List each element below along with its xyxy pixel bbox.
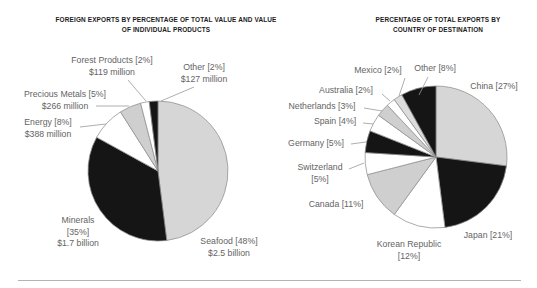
leader-line [363, 123, 373, 124]
wedge-china [436, 86, 507, 166]
leader-line [161, 87, 194, 101]
label-korean-republic-name: Korean Republic [377, 239, 442, 251]
label-forest-products-name: Forest Products [2%] [71, 55, 153, 67]
label-forest-products-value: $119 million [71, 67, 153, 79]
label-precious-metals-name: Precious Metals [5%] [24, 89, 106, 101]
label-minerals: Minerals [35%] $1.7 billion [56, 215, 99, 250]
label-seafood-name: Seafood [48%] [200, 236, 257, 248]
leader-line [382, 94, 390, 101]
label-other-countries: Other [8%] [413, 63, 456, 75]
label-canada-text: Canada [11%] [309, 199, 364, 211]
label-minerals-pct: [35%] [57, 227, 99, 239]
label-korean-republic: Korean Republic [12%] [376, 239, 443, 262]
label-minerals-name: Minerals [57, 215, 99, 227]
label-australia-text: Australia [2%] [319, 85, 373, 97]
label-mexico: Mexico [2%] [353, 65, 402, 77]
label-canada: Canada [11%] [308, 199, 364, 211]
label-japan-text: Japan [21%] [464, 230, 513, 242]
label-germany-text: Germany [5%] [288, 138, 344, 150]
wedge-japan [436, 157, 506, 227]
label-forest-products: Forest Products [2%] $119 million [70, 55, 154, 78]
leader-line [128, 80, 146, 101]
leader-line [80, 124, 106, 127]
label-other-products-value: $127 million [181, 74, 228, 86]
label-germany: Germany [5%] [287, 138, 345, 150]
label-spain-text: Spain [4%] [314, 116, 356, 128]
label-switzerland-name: Switzerland [297, 162, 342, 174]
label-energy-name: Energy [8%] [24, 117, 72, 129]
left-chart-title-line1: FOREIGN EXPORTS BY PERCENTAGE OF TOTAL V… [56, 15, 277, 25]
left-chart-title: FOREIGN EXPORTS BY PERCENTAGE OF TOTAL V… [38, 15, 295, 34]
label-australia: Australia [2%] [318, 85, 374, 97]
label-seafood: Seafood [48%] $2.5 billion [199, 236, 258, 259]
label-mexico-text: Mexico [2%] [354, 65, 402, 77]
label-other-products: Other [2%] $127 million [180, 62, 228, 85]
leader-line [364, 108, 382, 111]
label-switzerland: Switzerland [5%] [297, 162, 344, 185]
label-energy-value: $388 million [24, 129, 72, 141]
label-japan: Japan [21%] [463, 230, 513, 242]
right-chart-title: PERCENTAGE OF TOTAL EXPORTS BY COUNTRY O… [365, 15, 510, 34]
label-china-text: China [27%] [470, 81, 518, 93]
label-energy: Energy [8%] $388 million [23, 117, 72, 140]
label-precious-metals: Precious Metals [5%] $266 million [23, 89, 108, 112]
label-korean-republic-pct: [12%] [377, 251, 442, 263]
label-china: China [27%] [469, 81, 518, 93]
label-precious-metals-value: $266 million [24, 101, 106, 113]
chart-canvas: FOREIGN EXPORTS BY PERCENTAGE OF TOTAL V… [0, 0, 537, 288]
leader-line [349, 163, 364, 169]
label-minerals-value: $1.7 billion [57, 238, 99, 250]
right-chart-title-line1: PERCENTAGE OF TOTAL EXPORTS BY [376, 15, 501, 25]
wedge-seafood [158, 101, 228, 240]
label-spain: Spain [4%] [313, 116, 357, 128]
label-other-countries-text: Other [8%] [414, 63, 456, 75]
bottom-rule [18, 280, 521, 281]
right-chart-title-line2: COUNTRY OF DESTINATION [376, 25, 501, 35]
left-chart-title-line2: OF INDIVIDUAL PRODUCTS [56, 25, 277, 35]
leader-line [351, 142, 366, 144]
label-seafood-value: $2.5 billion [200, 248, 257, 260]
label-netherlands-text: Netherlands [3%] [289, 101, 356, 113]
label-switzerland-pct: [5%] [297, 174, 342, 186]
label-netherlands: Netherlands [3%] [287, 101, 356, 113]
label-other-products-name: Other [2%] [181, 62, 228, 74]
